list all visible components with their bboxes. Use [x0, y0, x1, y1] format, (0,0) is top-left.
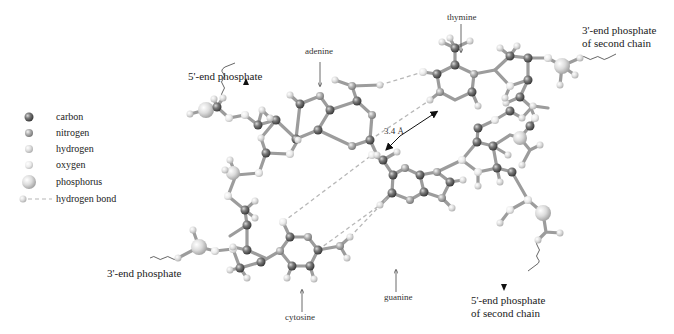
label-5-end-phosphate: 5'-end phosphate [188, 70, 262, 83]
carbon-swatch-icon [18, 110, 50, 126]
label-adenine: adenine [305, 46, 333, 57]
legend-label: phosphorus [56, 176, 102, 188]
label-distance: 3.4 Å [384, 126, 404, 137]
label-cytosine: cytosine [285, 312, 315, 323]
oxygen-swatch-icon [18, 158, 50, 174]
label-3-end-phosphate: 3'-end phosphate [107, 267, 181, 280]
legend-label: hydrogen [56, 143, 94, 155]
legend-label: nitrogen [56, 127, 89, 139]
legend-label: oxygen [56, 159, 85, 171]
dna-base-pair-diagram: 5'-end phosphate adenine thymine 3'-end … [0, 0, 674, 334]
label-3-end-second-chain-line1: 3'-end phosphate [582, 24, 656, 37]
nitrogen-swatch-icon [18, 126, 50, 142]
legend-label: hydrogen bond [56, 193, 116, 205]
hydrogen-bond-swatch-icon [18, 192, 54, 208]
label-5-end-second-chain-line2: of second chain [471, 307, 540, 320]
molecule-illustration [0, 0, 674, 334]
label-guanine: guanine [384, 292, 413, 303]
phosphorus-swatch-icon [18, 174, 50, 192]
label-thymine: thymine [447, 12, 477, 23]
label-pointer-arrows [302, 24, 461, 312]
hydrogen-swatch-icon [18, 142, 50, 158]
label-5-end-second-chain-line1: 5'-end phosphate [471, 294, 545, 307]
chain-end-arrowheads [243, 78, 507, 291]
legend-label: carbon [56, 111, 83, 123]
label-3-end-second-chain-line2: of second chain [582, 37, 651, 50]
